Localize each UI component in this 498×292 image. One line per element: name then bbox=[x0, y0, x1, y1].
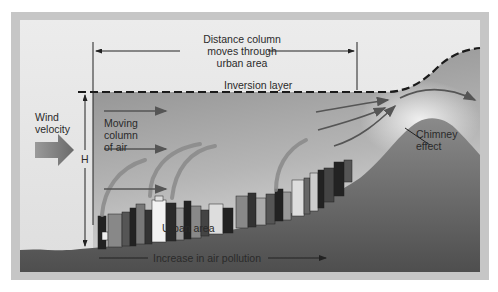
moving-column-line3: of air bbox=[104, 141, 138, 153]
wind-label-line1: Wind bbox=[35, 111, 70, 123]
chimney-label-line2: effect bbox=[416, 140, 457, 152]
pollution-label: Increase in air pollution bbox=[153, 252, 261, 264]
urban-area-label: Urban area bbox=[162, 222, 215, 234]
moving-column-label: Moving column of air bbox=[104, 117, 138, 153]
distance-label: Distance column moves through urban area bbox=[182, 33, 302, 69]
inversion-layer-label: Inversion layer bbox=[224, 79, 292, 91]
wind-label-line2: velocity bbox=[35, 123, 70, 135]
chimney-label-line1: Chimney bbox=[416, 128, 457, 140]
height-label: H bbox=[81, 153, 89, 165]
moving-column-line2: column bbox=[104, 129, 138, 141]
wind-velocity-label: Wind velocity bbox=[35, 111, 70, 135]
moving-column-line1: Moving bbox=[104, 117, 138, 129]
chimney-effect-label: Chimney effect bbox=[416, 128, 457, 152]
urban-air-pollution-diagram: Distance column moves through urban area… bbox=[0, 0, 498, 292]
distance-label-line3: urban area bbox=[182, 57, 302, 69]
distance-label-line1: Distance column bbox=[182, 33, 302, 45]
distance-label-line2: moves through bbox=[182, 45, 302, 57]
